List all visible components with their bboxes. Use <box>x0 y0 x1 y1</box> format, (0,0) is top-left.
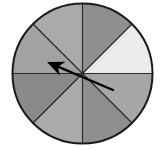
spinner-figure <box>0 0 163 150</box>
spinner-wheel-graphic[interactable] <box>0 0 163 150</box>
